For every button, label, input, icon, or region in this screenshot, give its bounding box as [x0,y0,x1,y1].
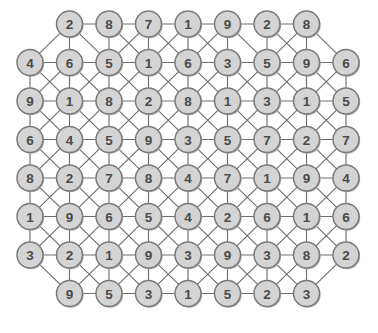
node-circle[interactable] [136,204,162,230]
node-circle[interactable] [294,50,320,76]
node-circle[interactable] [136,242,162,268]
graph-node[interactable]: 8 [294,11,321,38]
graph-node[interactable]: 3 [175,242,202,269]
graph-node[interactable]: 5 [215,281,242,308]
node-circle[interactable] [294,204,320,230]
graph-node[interactable]: 1 [17,204,44,231]
node-circle[interactable] [17,50,43,76]
node-circle[interactable] [215,11,241,37]
node-circle[interactable] [333,165,359,191]
node-circle[interactable] [215,204,241,230]
node-circle[interactable] [175,50,201,76]
node-circle[interactable] [254,204,280,230]
graph-node[interactable]: 1 [294,88,321,115]
node-circle[interactable] [57,165,83,191]
node-circle[interactable] [254,50,280,76]
graph-node[interactable]: 2 [333,242,360,269]
node-circle[interactable] [96,11,122,37]
graph-node[interactable]: 5 [96,281,123,308]
graph-node[interactable]: 3 [136,281,163,308]
node-circle[interactable] [294,281,320,307]
graph-node[interactable]: 1 [215,88,242,115]
graph-node[interactable]: 5 [254,50,281,77]
graph-node[interactable]: 9 [215,11,242,38]
node-circle[interactable] [136,88,162,114]
graph-node[interactable]: 7 [96,165,123,192]
graph-node[interactable]: 9 [136,127,163,154]
graph-node[interactable]: 8 [294,242,321,269]
node-circle[interactable] [254,281,280,307]
graph-node[interactable]: 3 [254,88,281,115]
graph-node[interactable]: 8 [17,165,44,192]
graph-node[interactable]: 9 [294,165,321,192]
node-circle[interactable] [215,88,241,114]
node-circle[interactable] [57,204,83,230]
graph-node[interactable]: 2 [294,127,321,154]
node-circle[interactable] [96,281,122,307]
node-circle[interactable] [294,127,320,153]
graph-node[interactable]: 1 [136,50,163,77]
node-circle[interactable] [136,50,162,76]
graph-node[interactable]: 9 [57,281,84,308]
node-circle[interactable] [175,204,201,230]
graph-node[interactable]: 8 [96,11,123,38]
graph-node[interactable]: 2 [136,88,163,115]
node-circle[interactable] [175,127,201,153]
graph-node[interactable]: 3 [254,242,281,269]
graph-node[interactable]: 5 [333,88,360,115]
node-circle[interactable] [254,88,280,114]
node-circle[interactable] [96,50,122,76]
node-circle[interactable] [136,281,162,307]
graph-node[interactable]: 6 [57,50,84,77]
graph-node[interactable]: 2 [57,165,84,192]
graph-node[interactable]: 2 [215,204,242,231]
node-circle[interactable] [57,11,83,37]
graph-node[interactable]: 5 [215,127,242,154]
graph-node[interactable]: 8 [136,165,163,192]
node-circle[interactable] [96,242,122,268]
graph-node[interactable]: 4 [17,50,44,77]
node-circle[interactable] [294,88,320,114]
node-circle[interactable] [215,50,241,76]
node-circle[interactable] [96,127,122,153]
graph-node[interactable]: 2 [57,242,84,269]
graph-node[interactable]: 6 [96,204,123,231]
graph-node[interactable]: 3 [215,50,242,77]
graph-node[interactable]: 2 [254,281,281,308]
graph-node[interactable]: 8 [175,88,202,115]
graph-node[interactable]: 9 [57,204,84,231]
graph-node[interactable]: 9 [136,242,163,269]
node-circle[interactable] [96,88,122,114]
node-circle[interactable] [215,165,241,191]
graph-node[interactable]: 3 [175,127,202,154]
node-circle[interactable] [175,165,201,191]
node-circle[interactable] [254,165,280,191]
graph-node[interactable]: 4 [57,127,84,154]
node-circle[interactable] [215,127,241,153]
graph-node[interactable]: 1 [57,88,84,115]
graph-node[interactable]: 2 [57,11,84,38]
node-circle[interactable] [96,165,122,191]
node-circle[interactable] [175,281,201,307]
node-circle[interactable] [57,127,83,153]
node-circle[interactable] [294,242,320,268]
node-circle[interactable] [57,50,83,76]
node-circle[interactable] [215,281,241,307]
node-circle[interactable] [333,50,359,76]
graph-node[interactable]: 2 [254,11,281,38]
node-circle[interactable] [17,88,43,114]
node-circle[interactable] [17,165,43,191]
node-circle[interactable] [333,127,359,153]
node-circle[interactable] [254,242,280,268]
node-circle[interactable] [294,165,320,191]
node-circle[interactable] [17,127,43,153]
graph-node[interactable]: 4 [175,204,202,231]
graph-node[interactable]: 7 [254,127,281,154]
graph-node[interactable]: 5 [96,50,123,77]
node-circle[interactable] [333,242,359,268]
graph-node[interactable]: 6 [333,50,360,77]
graph-node[interactable]: 9 [17,88,44,115]
node-circle[interactable] [215,242,241,268]
node-circle[interactable] [17,204,43,230]
node-circle[interactable] [57,88,83,114]
